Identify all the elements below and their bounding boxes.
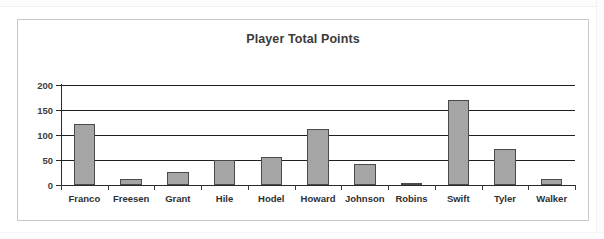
bar-slot [295, 85, 342, 185]
page-edge-bottom [0, 232, 604, 239]
bar-slot [388, 85, 435, 185]
x-axis-ticks [61, 185, 575, 190]
plot-area: 050100150200 [61, 85, 575, 185]
bar-swift[interactable] [448, 100, 469, 185]
chart-frame: Player Total Points 050100150200 FrancoF… [17, 19, 589, 221]
bar-tyler[interactable] [494, 149, 515, 185]
x-axis-tick-mark [108, 185, 109, 190]
x-axis-tick-mark [575, 185, 576, 190]
y-axis-tick-label: 150 [37, 105, 53, 116]
x-axis-label-grant: Grant [154, 193, 201, 204]
x-axis-label-tyler: Tyler [482, 193, 529, 204]
x-axis-tick-mark [388, 185, 389, 190]
bar-slot [61, 85, 108, 185]
x-axis-label-freesen: Freesen [108, 193, 155, 204]
x-axis-tick-mark [154, 185, 155, 190]
bar-slot [341, 85, 388, 185]
x-axis-tick-mark [528, 185, 529, 190]
y-axis-tick-label: 0 [48, 180, 53, 191]
x-axis-tick-mark [61, 185, 62, 190]
x-axis-labels: FrancoFreesenGrantHileHodelHowardJohnson… [61, 193, 575, 204]
bar-slot [154, 85, 201, 185]
x-axis-tick-mark [482, 185, 483, 190]
screenshot-page: Player Total Points 050100150200 FrancoF… [0, 0, 604, 239]
bar-slot [201, 85, 248, 185]
x-axis-tick-mark [295, 185, 296, 190]
bar-hile[interactable] [214, 160, 235, 185]
bar-slot [482, 85, 529, 185]
bar-slot [435, 85, 482, 185]
bar-slot [108, 85, 155, 185]
x-axis-label-robins: Robins [388, 193, 435, 204]
page-edge-right [596, 0, 604, 239]
bar-hodel[interactable] [261, 157, 282, 186]
bar-slot [248, 85, 295, 185]
y-axis-tick-label: 200 [37, 80, 53, 91]
x-axis-tick-mark [341, 185, 342, 190]
x-axis-label-walker: Walker [528, 193, 575, 204]
bar-johnson[interactable] [354, 164, 375, 185]
y-axis-tick-label: 100 [37, 130, 53, 141]
chart-title: Player Total Points [18, 32, 588, 46]
bar-howard[interactable] [307, 129, 328, 185]
bar-grant[interactable] [167, 172, 188, 186]
x-axis-tick-mark [201, 185, 202, 190]
bar-series [61, 85, 575, 185]
x-axis-label-hile: Hile [201, 193, 248, 204]
bar-franco[interactable] [74, 124, 95, 186]
x-axis-label-franco: Franco [61, 193, 108, 204]
bar-slot [528, 85, 575, 185]
page-edge-top [0, 0, 604, 7]
x-axis-label-howard: Howard [295, 193, 342, 204]
y-axis-tick-label: 50 [42, 155, 53, 166]
x-axis-tick-mark [435, 185, 436, 190]
x-axis-label-swift: Swift [435, 193, 482, 204]
x-axis-tick-mark [248, 185, 249, 190]
x-axis-label-hodel: Hodel [248, 193, 295, 204]
x-axis-label-johnson: Johnson [341, 193, 388, 204]
